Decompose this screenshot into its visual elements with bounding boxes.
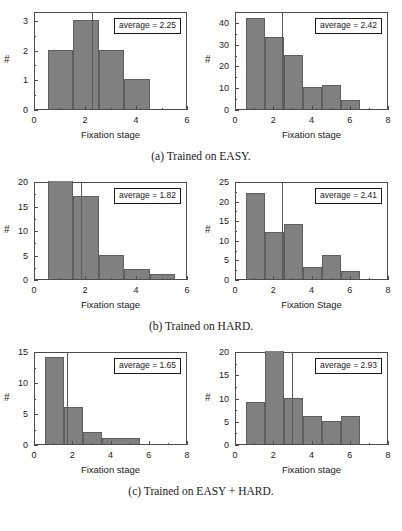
y-axis-tick-label: 15 (0, 202, 28, 212)
y-axis-tick-label: 0 (201, 275, 229, 285)
y-axis-tick-label: 0 (0, 440, 28, 450)
x-axis-title: Fixation stage (282, 129, 341, 140)
x-axis-tick-label: 4 (309, 285, 314, 295)
y-axis-tick (235, 241, 239, 242)
x-axis-tick (388, 106, 389, 110)
y-axis-minor-tick (235, 99, 237, 100)
x-axis-tick-label: 6 (347, 115, 352, 125)
y-axis-tick (235, 202, 239, 203)
x-axis-tick (187, 276, 188, 280)
chart-panel-hard-right: 024680510152025Fixation Stage#average = … (201, 170, 402, 320)
histogram-bar (303, 87, 322, 109)
x-axis-tick (111, 441, 112, 445)
y-axis-minor-tick (34, 194, 36, 195)
x-axis-minor-tick (162, 108, 163, 110)
histogram-bar (73, 196, 99, 279)
y-axis-tick (235, 23, 239, 24)
x-axis-tick-label: 6 (146, 450, 151, 460)
x-axis-tick-label: 8 (385, 285, 390, 295)
x-axis-minor-tick (254, 443, 255, 445)
y-axis-minor-tick (34, 399, 36, 400)
average-annotation-box: average = 2.93 (315, 358, 382, 374)
x-axis-minor-tick (331, 443, 332, 445)
y-axis-tick (34, 352, 38, 353)
y-axis-tick (235, 445, 239, 446)
x-axis-tick (350, 441, 351, 445)
y-axis-minor-tick (34, 268, 36, 269)
y-axis-tick-label: 0 (201, 105, 229, 115)
figure-row-a: 02460123Fixation stage#average = 2.25 02… (0, 0, 402, 162)
subfigure-caption-a: (a) Trained on EASY. (0, 150, 402, 162)
histogram-bar (124, 269, 150, 279)
histogram-bar (246, 18, 265, 109)
x-axis-minor-tick (130, 443, 131, 445)
histogram-bar (303, 416, 322, 444)
y-axis-tick (34, 445, 38, 446)
x-axis-tick (136, 276, 137, 280)
figure-row-b: 024605101520Fixation stage#average = 1.8… (0, 170, 402, 332)
x-axis-minor-tick (331, 278, 332, 280)
y-axis-tick-label: 20 (0, 177, 28, 187)
x-axis-tick-label: 2 (70, 450, 75, 460)
figure-row-c: 02468051015Fixation stage#average = 1.65… (0, 340, 402, 497)
y-axis-minor-tick (235, 231, 237, 232)
average-annotation-box: average = 1.65 (114, 358, 181, 374)
histogram-bar (265, 351, 284, 444)
x-axis-tick-label: 2 (271, 450, 276, 460)
average-marker-line (282, 183, 283, 279)
x-axis-tick-label: 0 (232, 285, 237, 295)
y-axis-tick (235, 422, 239, 423)
x-axis-minor-tick (53, 443, 54, 445)
x-axis-minor-tick (331, 108, 332, 110)
y-axis-tick-label: 25 (201, 177, 229, 187)
y-axis-tick-label: 15 (0, 347, 28, 357)
y-axis-minor-tick (235, 56, 237, 57)
x-axis-tick-label: 6 (184, 285, 189, 295)
histogram-bar (341, 271, 360, 279)
x-axis-title: Fixation stage (81, 299, 140, 310)
y-axis-title: # (205, 392, 211, 403)
histogram-bar (246, 193, 265, 279)
x-axis-tick-label: 6 (184, 115, 189, 125)
y-axis-tick-label: 15 (201, 370, 229, 380)
histogram-bar (341, 100, 360, 109)
x-axis-tick-label: 0 (232, 450, 237, 460)
chart-panel-easy-right: 02468010203040Fixation stage#average = 2… (201, 0, 402, 150)
x-axis-tick (149, 441, 150, 445)
x-axis-minor-tick (91, 443, 92, 445)
y-axis-tick (34, 207, 38, 208)
subfigure-caption-c: (c) Trained on EASY + HARD. (0, 485, 402, 497)
x-axis-tick (85, 106, 86, 110)
y-axis-minor-tick (235, 211, 237, 212)
y-axis-tick (235, 375, 239, 376)
x-axis-tick-label: 4 (133, 285, 138, 295)
y-axis-tick (34, 51, 38, 52)
y-axis-tick-label: 5 (0, 409, 28, 419)
y-axis-tick-label: 10 (201, 236, 229, 246)
x-axis-minor-tick (369, 443, 370, 445)
y-axis-title: # (4, 54, 10, 65)
x-axis-tick (312, 441, 313, 445)
histogram-bar (322, 255, 341, 279)
y-axis-tick (34, 256, 38, 257)
histogram-bar (102, 438, 140, 444)
x-axis-tick-label: 6 (347, 285, 352, 295)
y-axis-minor-tick (235, 34, 237, 35)
chart-panel-easyhard-left: 02468051015Fixation stage#average = 1.65 (0, 340, 201, 485)
y-axis-tick-label: 3 (0, 16, 28, 26)
y-axis-minor-tick (235, 410, 237, 411)
x-axis-minor-tick (162, 278, 163, 280)
x-axis-tick (273, 441, 274, 445)
x-axis-title: Fixation Stage (281, 299, 342, 310)
average-annotation-box: average = 2.42 (315, 18, 382, 34)
y-axis-minor-tick (235, 192, 237, 193)
histogram-bar (45, 357, 64, 444)
y-axis-tick-label: 0 (0, 105, 28, 115)
x-axis-tick-label: 8 (385, 115, 390, 125)
y-axis-minor-tick (34, 243, 36, 244)
y-axis-tick-label: 0 (201, 440, 229, 450)
y-axis-tick (34, 21, 38, 22)
y-axis-tick-label: 1 (0, 75, 28, 85)
y-axis-minor-tick (34, 219, 36, 220)
y-axis-tick (34, 182, 38, 183)
